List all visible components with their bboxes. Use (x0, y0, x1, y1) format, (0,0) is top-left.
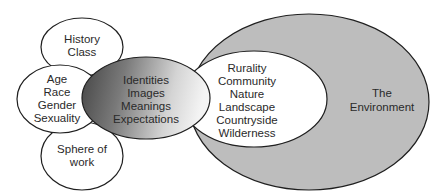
age-race-label-line: Sexuality (34, 112, 81, 124)
identities-label-line: Meanings (121, 100, 171, 112)
identities-label-line: Expectations (113, 113, 179, 125)
history-class-label-line: Class (68, 46, 97, 58)
rurality-label-line: Community (218, 75, 276, 87)
age-race-label-line: Race (44, 86, 71, 98)
rurality-label-line: Nature (230, 88, 265, 100)
rurality-label-line: Wilderness (219, 127, 276, 139)
identities-label-line: Identities (123, 74, 169, 86)
identities-node: Identities Images Meanings Expectations (82, 57, 210, 139)
sphere-of-work-label-line: work (69, 156, 95, 168)
age-race-label-line: Age (47, 73, 67, 85)
diagram-canvas: The Environment Rurality Community Natur… (0, 0, 433, 194)
rurality-label-line: Countryside (216, 114, 277, 126)
identities-label-line: Images (127, 87, 165, 99)
history-class-label-line: History (64, 33, 100, 45)
rurality-label-line: Landscape (219, 101, 275, 113)
age-race-label-line: Gender (38, 99, 77, 111)
environment-label-line: Environment (350, 101, 415, 113)
sphere-of-work-label-line: Sphere of (57, 143, 108, 155)
rurality-label-line: Rurality (228, 62, 267, 74)
environment-label-line: The (372, 87, 392, 99)
